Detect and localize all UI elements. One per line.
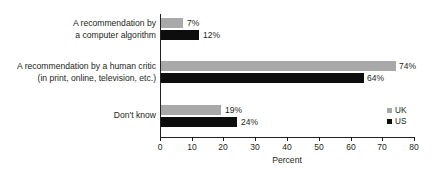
x-tick-label-10: 10 [177,142,207,152]
x-tick-0 [160,137,161,141]
bar-uk-dont-know [161,105,221,115]
category-label-human-critic: A recommendation by a human critic (in p… [0,61,156,84]
x-tick-50 [319,137,320,141]
x-tick-label-80: 80 [399,142,429,152]
bar-uk-algorithm [161,18,183,28]
x-axis-title: Percent [160,155,414,166]
bar-value-uk-human-critic: 74% [399,61,416,71]
bar-us-algorithm [161,30,199,40]
category-label-dont-know-line1: Don't know [0,110,156,122]
legend-label-uk: UK [395,105,406,116]
category-label-dont-know: Don't know [0,110,156,122]
x-tick-label-50: 50 [304,142,334,152]
legend-item-uk: UK [387,105,406,116]
bar-value-uk-dont-know: 19% [225,105,242,115]
bar-value-us-algorithm: 12% [203,30,220,40]
x-tick-80 [414,137,415,141]
x-tick-label-0: 0 [145,142,175,152]
category-label-human-critic-line2: (in print, online, television, etc.) [0,73,156,85]
legend-label-us: US [395,116,406,127]
x-tick-label-60: 60 [336,142,366,152]
x-tick-label-30: 30 [240,142,270,152]
legend-swatch-uk-icon [387,108,392,113]
x-tick-30 [255,137,256,141]
x-tick-70 [382,137,383,141]
bar-us-human-critic [161,73,364,83]
x-tick-60 [351,137,352,141]
x-tick-40 [287,137,288,141]
category-label-algorithm-line2: a computer algorithm [0,30,156,42]
bar-chart: A recommendation by a computer algorithm… [0,0,437,173]
bar-us-dont-know [161,117,237,127]
x-tick-label-20: 20 [208,142,238,152]
category-label-algorithm: A recommendation by a computer algorithm [0,18,156,41]
bar-uk-human-critic [161,61,396,71]
category-label-human-critic-line1: A recommendation by a human critic [0,61,156,73]
legend-item-us: US [387,116,406,127]
x-tick-20 [223,137,224,141]
legend-swatch-us-icon [387,119,392,124]
x-tick-label-70: 70 [367,142,397,152]
bar-value-us-dont-know: 24% [241,117,258,127]
x-tick-10 [192,137,193,141]
legend: UK US [387,105,406,127]
bar-value-uk-algorithm: 7% [187,18,199,28]
category-label-algorithm-line1: A recommendation by [0,18,156,30]
bar-value-us-human-critic: 64% [367,73,384,83]
x-tick-label-40: 40 [272,142,302,152]
